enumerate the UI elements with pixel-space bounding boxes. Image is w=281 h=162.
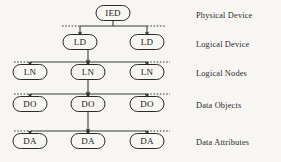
node-label-do-1: DO [23, 99, 37, 109]
node-label-ied-1: IED [105, 8, 121, 18]
row-label-logical-device: Logical Device [196, 40, 250, 49]
node-ln-2[interactable]: LN [71, 65, 105, 80]
node-do-3[interactable]: DO [130, 97, 164, 112]
node-ln-1[interactable]: LN [13, 65, 47, 80]
node-label-ln-2: LN [82, 67, 95, 77]
diagram-canvas: IEDLDLDLNLNLNDODODODADADA Physical Devic… [0, 0, 281, 162]
node-label-da-1: DA [23, 136, 37, 146]
row-label-data-objects: Data Objects [196, 101, 241, 110]
node-label-ld-1: LD [74, 37, 87, 47]
node-da-2[interactable]: DA [71, 134, 105, 149]
node-ied-1[interactable]: IED [96, 6, 130, 21]
node-label-da-3: DA [140, 136, 154, 146]
node-do-1[interactable]: DO [13, 97, 47, 112]
node-label-do-3: DO [140, 99, 154, 109]
node-da-3[interactable]: DA [130, 134, 164, 149]
row-label-physical-device: Physical Device [196, 11, 252, 20]
node-label-do-2: DO [81, 99, 95, 109]
node-ld-1[interactable]: LD [63, 35, 97, 50]
row-label-data-attributes: Data Attributes [196, 138, 249, 147]
node-ln-3[interactable]: LN [130, 65, 164, 80]
node-label-ln-3: LN [141, 67, 154, 77]
node-label-ln-1: LN [24, 67, 37, 77]
node-do-2[interactable]: DO [71, 97, 105, 112]
row-label-logical-nodes: Logical Nodes [196, 69, 247, 78]
node-ld-2[interactable]: LD [130, 35, 164, 50]
node-label-ld-2: LD [141, 37, 154, 47]
node-da-1[interactable]: DA [13, 134, 47, 149]
node-label-da-2: DA [81, 136, 95, 146]
